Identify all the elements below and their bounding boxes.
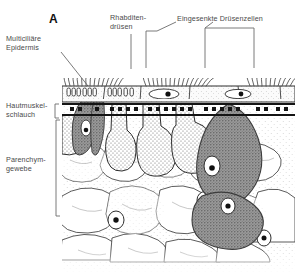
- epidermis-band: [62, 86, 295, 102]
- leader-gland-diag: [157, 22, 176, 31]
- bracket-parenchyma: [56, 120, 60, 216]
- leader-epidermis: [61, 52, 88, 86]
- leader-lines: [61, 22, 254, 86]
- nucleus: [149, 89, 179, 99]
- leader-gland-tick: [205, 22, 213, 28]
- nucleus: [204, 156, 220, 176]
- cilia-layer: [63, 63, 295, 86]
- figure-root: A Multiciliäre Epidermis Rhabditen- drüs…: [0, 0, 295, 274]
- bottom-fade: [62, 210, 295, 274]
- nucleus: [225, 89, 251, 98]
- bracket-muscle-sac: [55, 104, 59, 118]
- nucleus: [81, 120, 91, 136]
- anatomy-diagram: [0, 0, 295, 274]
- body-wall-section: [58, 63, 295, 274]
- left-brackets: [55, 104, 60, 216]
